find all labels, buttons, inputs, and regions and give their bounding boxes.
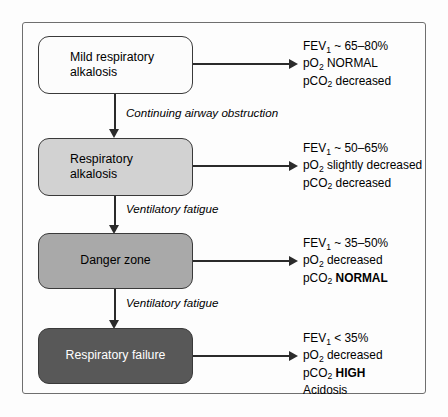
stage-box-mild-respiratory-alkalosis: Mild respiratory alkalosis [38,36,193,94]
annotation-po2-line: pO2 decreased [303,347,383,364]
annotation-fev-line: FEV1 ~ 50–65% [303,140,422,157]
annotation-fev-line: FEV1 ~ 65–80% [303,38,391,55]
annotation-stage-2: FEV1 ~ 50–65% pO2 slightly decreased pCO… [303,140,422,192]
annotation-pco2-line: pCO2 NORMAL [303,270,388,287]
annotation-pco2-line: pCO2 decreased [303,73,391,90]
stage-box-respiratory-failure: Respiratory failure [38,328,193,384]
connector-line-2 [114,196,116,226]
annotation-po2-line: pO2 NORMAL [303,55,391,72]
stage-label: Mild respiratory alkalosis [70,50,154,81]
arrow-head-stage-2 [289,161,298,171]
annotation-stage-3: FEV1 ~ 35–50% pO2 decreased pCO2 NORMAL [303,235,388,287]
connector-line-1 [114,94,116,130]
annotation-extra-line: Acidosis [303,382,383,398]
respiratory-stages-figure: Mild respiratory alkalosis FEV1 ~ 65–80%… [0,0,448,417]
transition-label-2: Ventilatory fatigue [126,202,218,215]
arrow-line-stage-4 [193,355,290,357]
arrow-head-stage-1 [289,59,298,69]
stage-label: Danger zone [80,253,150,269]
annotation-stage-1: FEV1 ~ 65–80% pO2 NORMAL pCO2 decreased [303,38,391,90]
annotation-pco2-line: pCO2 decreased [303,175,422,192]
arrow-head-stage-3 [289,256,298,266]
arrow-line-stage-2 [193,165,290,167]
connector-arrow-1 [109,129,119,138]
annotation-fev-line: FEV1 ~ 35–50% [303,235,388,252]
arrow-line-stage-3 [193,260,290,262]
transition-label-3: Ventilatory fatigue [126,296,218,309]
stage-label: Respiratory alkalosis [70,152,133,183]
annotation-pco2-line: pCO2 HIGH [303,365,383,382]
annotation-fev-line: FEV1 < 35% [303,330,383,347]
connector-line-3 [114,289,116,321]
annotation-po2-line: pO2 slightly decreased [303,157,422,174]
transition-label-1: Continuing airway obstruction [126,106,278,119]
annotation-po2-line: pO2 decreased [303,252,388,269]
arrow-head-stage-4 [289,351,298,361]
stage-box-danger-zone: Danger zone [38,233,193,289]
stage-box-respiratory-alkalosis: Respiratory alkalosis [38,138,193,196]
annotation-stage-4: FEV1 < 35% pO2 decreased pCO2 HIGH Acido… [303,330,383,399]
stage-label: Respiratory failure [66,348,166,364]
arrow-line-stage-1 [193,63,290,65]
